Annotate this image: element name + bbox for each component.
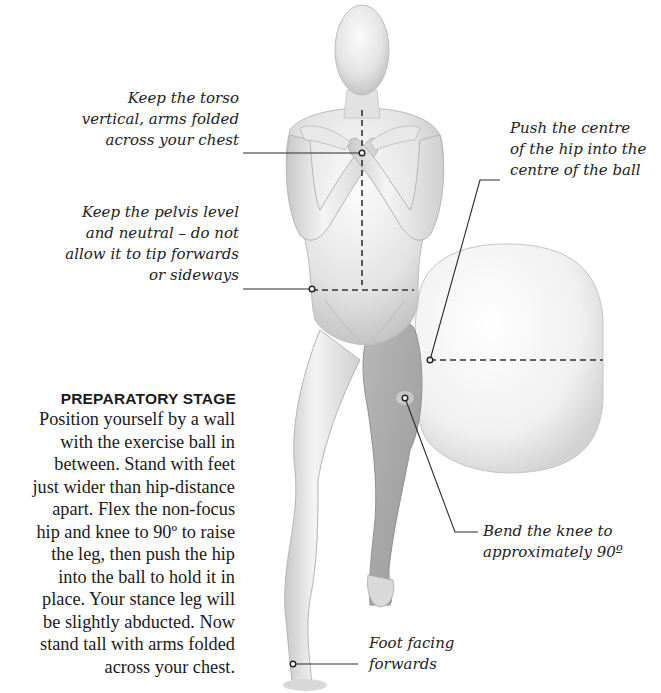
annotation-knee: Bend the knee to approximately 90º <box>483 521 623 563</box>
body-line: the leg, then push the hip <box>32 543 235 566</box>
annotation-hip: Push the centre of the hip into the cent… <box>510 118 646 181</box>
annotation-line: forwards <box>369 654 454 675</box>
body-line: just wider than hip-distance <box>32 476 235 499</box>
body-line: with the exercise ball in <box>32 431 235 454</box>
pelvis-point-icon <box>309 286 315 292</box>
body-line: be slightly abducted. Now <box>32 611 235 634</box>
annotation-foot: Foot facing forwards <box>369 633 454 675</box>
annotation-line: of the hip into the <box>510 139 646 160</box>
stance-leg <box>283 330 360 691</box>
annotation-line: allow it to tip forwards <box>65 244 239 265</box>
annotation-line: Foot facing <box>369 633 454 654</box>
annotation-line: vertical, arms folded <box>82 109 239 130</box>
annotation-pelvis: Keep the pelvis level and neutral – do n… <box>65 202 239 286</box>
body-line: stand tall with arms folded <box>32 633 235 656</box>
body-line: place. Your stance leg will <box>32 588 235 611</box>
annotation-line: centre of the ball <box>510 160 646 181</box>
annotation-line: Push the centre <box>510 118 646 139</box>
ankle-point-icon <box>290 661 296 667</box>
body-line: Position yourself by a wall <box>32 408 235 431</box>
body-line: apart. Flex the non-focus <box>32 498 235 521</box>
torso-point-icon <box>359 150 365 156</box>
body-line: hip and knee to 90º to raise <box>32 521 235 544</box>
preparatory-stage-body: Position yourself by a wall with the exe… <box>32 408 235 678</box>
annotation-line: across your chest <box>82 130 239 151</box>
body-line: into the ball to hold it in <box>32 566 235 589</box>
annotation-line: Keep the pelvis level <box>65 202 239 223</box>
knee-point-icon <box>402 395 408 401</box>
annotation-line: Bend the knee to <box>483 521 623 542</box>
head <box>335 5 389 118</box>
annotation-line: Keep the torso <box>82 88 239 109</box>
body-line: across your chest. <box>32 656 235 679</box>
raised-leg <box>363 318 422 607</box>
annotation-line: or sideways <box>65 265 239 286</box>
hip-point-icon <box>427 357 433 363</box>
annotation-torso: Keep the torso vertical, arms folded acr… <box>82 88 239 151</box>
preparatory-stage-heading: PREPARATORY STAGE <box>61 390 236 408</box>
annotation-line: and neutral – do not <box>65 223 239 244</box>
body-line: between. Stand with feet <box>32 453 235 476</box>
exercise-ball <box>414 244 603 473</box>
annotation-line: approximately 90º <box>483 542 623 563</box>
